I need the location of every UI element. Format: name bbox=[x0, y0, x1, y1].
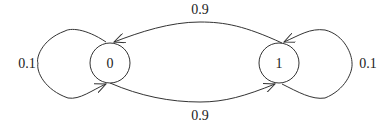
state-1: 1 bbox=[259, 43, 299, 83]
label-0-to-0: 0.1 bbox=[18, 56, 36, 71]
state-1-label: 1 bbox=[276, 56, 283, 71]
label-0-to-1: 0.9 bbox=[191, 108, 209, 123]
edge-0-to-1 bbox=[110, 83, 275, 102]
state-diagram: 0 1 0.9 0.9 0.1 0.1 bbox=[0, 0, 391, 126]
label-1-to-0: 0.9 bbox=[191, 2, 209, 17]
state-0-label: 0 bbox=[107, 56, 114, 71]
label-1-to-1: 0.1 bbox=[359, 56, 377, 71]
edge-1-to-0 bbox=[114, 22, 282, 43]
state-0: 0 bbox=[90, 43, 130, 83]
